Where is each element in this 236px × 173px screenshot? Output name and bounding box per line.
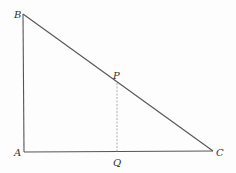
label-b: B [13,9,21,20]
triangle-diagram: B A C P Q [0,0,236,173]
segment-ac [24,151,213,152]
label-c: C [216,147,224,158]
label-p: P [112,70,120,81]
label-q: Q [113,157,121,168]
segment-ab [23,14,24,152]
label-a: A [13,147,21,158]
segment-bc [23,14,213,151]
